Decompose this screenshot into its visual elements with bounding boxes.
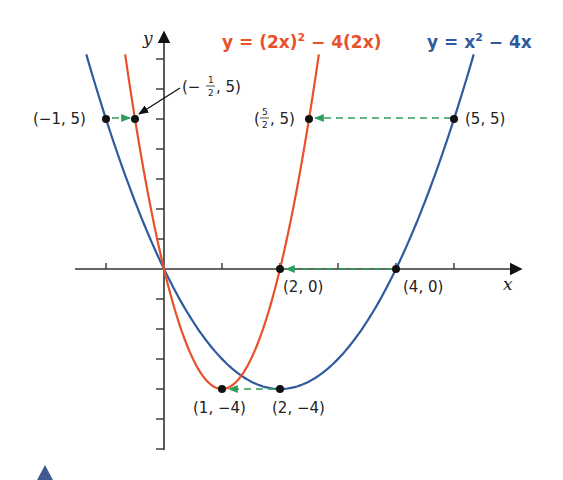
point-marker <box>276 385 284 393</box>
label-point-5half-5-rest: , 5) <box>270 110 295 128</box>
mapping-arrows <box>112 118 451 389</box>
point-marker <box>218 385 226 393</box>
label-point-2-m4: (2, −4) <box>272 399 325 417</box>
label-point-m1-5: (−1, 5) <box>33 110 86 128</box>
pointer-arrow-mhalf <box>139 88 180 114</box>
equation-red: y = (2x)2 − 4(2x) <box>222 31 381 52</box>
label-point-4-0: (4, 0) <box>403 278 443 296</box>
point-marker <box>102 115 110 123</box>
y-axis-label: y <box>142 28 153 48</box>
fraction-numerator: 1 <box>208 75 214 85</box>
point-marker <box>305 115 313 123</box>
label-point-2-0: (2, 0) <box>283 278 323 296</box>
graph-transformation-chart: x y (−1, 5) (− 1 2 , 5) ( 5 2 , 5) (5, 5… <box>0 0 563 480</box>
point-labels: (−1, 5) (− 1 2 , 5) ( 5 2 , 5) (5, 5) (2… <box>33 75 505 417</box>
equation-blue: y = x2 − 4x <box>427 31 532 52</box>
label-point-5-5: (5, 5) <box>465 110 505 128</box>
point-marker <box>450 115 458 123</box>
fraction-denominator: 2 <box>208 88 214 98</box>
key-points <box>102 115 458 393</box>
label-point-mhalf-5-rest: , 5) <box>216 78 241 96</box>
triangle-icon <box>37 465 53 480</box>
label-point-1-m4: (1, −4) <box>193 399 246 417</box>
fraction-numerator: 5 <box>262 107 268 117</box>
label-point-mhalf-5: (− <box>182 78 200 96</box>
point-marker <box>276 265 284 273</box>
x-axis-label: x <box>503 274 513 294</box>
curve-blue-x2-minus-4x <box>86 54 473 389</box>
fraction-denominator: 2 <box>262 120 268 130</box>
point-marker <box>392 265 400 273</box>
label-point-5half-5: ( <box>254 110 260 128</box>
point-marker <box>131 115 139 123</box>
